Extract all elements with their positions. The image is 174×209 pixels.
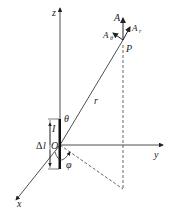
y-axis-label: y (153, 149, 159, 160)
x-axis-label: x (16, 198, 22, 209)
vector-ar-sub: r (139, 28, 142, 34)
vector-atheta-sub: θ (110, 35, 113, 41)
current-label: I (51, 123, 56, 134)
radius-label: r (94, 95, 98, 106)
spherical-coordinate-diagram: z y x O P r θ φ I Δ l A A r A θ (0, 0, 174, 209)
vector-ar-label: A (131, 23, 138, 33)
vector-ar-arrow (123, 27, 130, 40)
x-axis (16, 145, 60, 200)
point-p-label: P (125, 43, 132, 54)
z-axis-label: z (51, 7, 56, 18)
current-element-rod (59, 119, 62, 169)
delta-label: Δ (36, 140, 43, 151)
origin-label: O (51, 140, 58, 151)
theta-label: θ (64, 113, 69, 124)
length-label: l (43, 140, 46, 151)
vector-a-label: A (113, 12, 121, 23)
radius-line (60, 40, 123, 145)
vector-atheta-label: A (102, 30, 109, 40)
phi-label: φ (66, 159, 72, 170)
vector-atheta-arrow (113, 33, 123, 40)
